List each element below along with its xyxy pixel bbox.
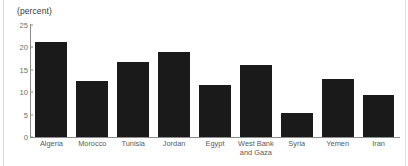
bar-column (76, 0, 108, 137)
y-axis-tick-label: 10 (20, 88, 28, 97)
x-axis-category-label: West Bank and Gaza (235, 140, 276, 157)
bar-chart-figure: (percent) 0510152025 AlgeriaMoroccoTunis… (0, 0, 408, 166)
x-axis-category-label: Jordan (154, 140, 195, 149)
x-axis-category-label: Iran (358, 140, 399, 149)
x-axis-category-label: Morocco (72, 140, 113, 149)
page-border-right (405, 0, 406, 166)
bar-column (240, 0, 272, 137)
bar-column (35, 0, 67, 137)
bar (35, 42, 67, 137)
bar (158, 52, 190, 137)
y-axis-tick-label: 0 (24, 133, 28, 142)
bar-column (322, 0, 354, 137)
y-axis-tick-label: 5 (24, 110, 28, 119)
bar (76, 81, 108, 137)
bar-series (31, 0, 399, 137)
y-axis-tick-label: 20 (20, 43, 28, 52)
bar-column (281, 0, 313, 137)
y-axis-tick-label: 25 (20, 21, 28, 30)
bar (240, 65, 272, 137)
bar (281, 113, 313, 137)
bar (199, 85, 231, 137)
x-axis-category-label: Yemen (317, 140, 358, 149)
x-axis-category-label: Algeria (31, 140, 72, 149)
bar-column (158, 0, 190, 137)
x-axis-category-labels: AlgeriaMoroccoTunisiaJordanEgyptWest Ban… (31, 140, 399, 166)
bar-column (363, 0, 395, 137)
y-axis-tick-labels: 0510152025 (0, 0, 28, 166)
x-axis-category-label: Egypt (195, 140, 236, 149)
x-axis-category-label: Syria (276, 140, 317, 149)
bar-column (199, 0, 231, 137)
bar (363, 95, 395, 137)
bar (117, 62, 149, 137)
bar-column (117, 0, 149, 137)
bar (322, 79, 354, 137)
x-axis-line (30, 137, 400, 138)
x-axis-category-label: Tunisia (113, 140, 154, 149)
y-axis-tick-label: 15 (20, 65, 28, 74)
